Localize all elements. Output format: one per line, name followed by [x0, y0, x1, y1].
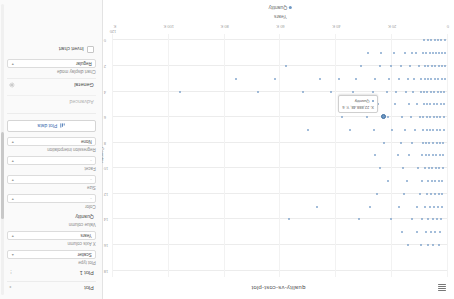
plot-1-row[interactable]: Plot 1 ⋮ — [7, 269, 96, 277]
scatter-point[interactable] — [433, 206, 435, 208]
scatter-point[interactable] — [439, 142, 441, 144]
scatter-point[interactable] — [387, 180, 389, 182]
scatter-point[interactable] — [441, 78, 443, 80]
scatter-point[interactable] — [421, 155, 423, 157]
scatter-point[interactable] — [316, 206, 318, 208]
scatter-point[interactable] — [416, 231, 418, 233]
scatter-point[interactable] — [435, 52, 437, 54]
scatter-point[interactable] — [430, 39, 432, 41]
scatter-point[interactable] — [434, 231, 436, 233]
scatter-point[interactable] — [341, 116, 343, 118]
scatter-point[interactable] — [330, 91, 332, 93]
scatter-point[interactable] — [425, 142, 427, 144]
scatter-point[interactable] — [407, 244, 409, 246]
scatter-point[interactable] — [433, 103, 435, 105]
scatter-point[interactable] — [440, 91, 442, 93]
scatter-point[interactable] — [432, 129, 434, 131]
scatter-point[interactable] — [414, 78, 416, 80]
scatter-point[interactable] — [443, 129, 445, 131]
scatter-point[interactable] — [421, 180, 423, 182]
scatter-point[interactable] — [436, 129, 438, 131]
scatter-point[interactable] — [416, 103, 418, 105]
scatter-point[interactable] — [437, 206, 439, 208]
scatter-point[interactable] — [398, 78, 400, 80]
scatter-point[interactable] — [358, 218, 360, 220]
scatter-point[interactable] — [422, 52, 424, 54]
scatter-point[interactable] — [376, 193, 378, 195]
scatter-point[interactable] — [431, 180, 433, 182]
scatter-point[interactable] — [179, 91, 181, 93]
scatter-point[interactable] — [440, 39, 442, 41]
scatter-point[interactable] — [285, 65, 287, 67]
regression-interpolation-select[interactable]: None ▼ — [7, 137, 96, 146]
scatter-point[interactable] — [434, 78, 436, 80]
scatter-point[interactable] — [431, 65, 433, 67]
panel-scrollbar-thumb[interactable] — [1, 132, 4, 219]
scatter-point[interactable] — [374, 155, 376, 157]
scatter-point[interactable] — [366, 116, 368, 118]
plot-type-select[interactable]: Scatter ▲ — [7, 250, 96, 259]
scatter-point[interactable] — [386, 91, 388, 93]
drag-handle-icon[interactable]: ⋮ — [9, 271, 13, 276]
scatter-point[interactable] — [338, 78, 340, 80]
scatter-point[interactable] — [433, 116, 435, 118]
scatter-point[interactable] — [390, 65, 392, 67]
scatter-point[interactable] — [436, 103, 438, 105]
scatter-point[interactable] — [274, 78, 276, 80]
scatter-point[interactable] — [288, 218, 290, 220]
scatter-point[interactable] — [412, 91, 414, 93]
x-axis-column-select[interactable]: Years ▼ — [7, 231, 96, 240]
scatter-point[interactable] — [428, 142, 430, 144]
scatter-point[interactable] — [437, 91, 439, 93]
scatter-point[interactable] — [393, 52, 395, 54]
scatter-point[interactable] — [401, 116, 403, 118]
scatter-point[interactable] — [352, 91, 354, 93]
scatter-point[interactable] — [420, 91, 422, 93]
scatter-point[interactable] — [438, 244, 440, 246]
scatter-point[interactable] — [374, 78, 376, 80]
scatter-point[interactable] — [443, 103, 445, 105]
plot-area[interactable]: 024681012141618020 K40 K60 K80 K100 K120… — [113, 34, 448, 277]
scatter-point[interactable] — [406, 180, 408, 182]
chart-display-mode-select[interactable]: Regular ▼ — [7, 59, 96, 68]
scatter-point[interactable] — [417, 167, 419, 169]
panel-scrollbar[interactable] — [1, 4, 4, 295]
scatter-point[interactable] — [426, 129, 428, 131]
scatter-point[interactable] — [422, 129, 424, 131]
scatter-point[interactable] — [439, 155, 441, 157]
scatter-point[interactable] — [432, 52, 434, 54]
scatter-point[interactable] — [427, 244, 429, 246]
scatter-point[interactable] — [436, 116, 438, 118]
scatter-point[interactable] — [440, 218, 442, 220]
scatter-point[interactable] — [380, 52, 382, 54]
scatter-point[interactable] — [349, 129, 351, 131]
scatter-point[interactable] — [436, 142, 438, 144]
scatter-point[interactable] — [407, 78, 409, 80]
scatter-point[interactable] — [419, 116, 421, 118]
section-plot[interactable]: Plot ▸ — [7, 281, 96, 294]
scatter-point[interactable] — [422, 142, 424, 144]
chart-legend[interactable]: Quantity — [269, 5, 293, 11]
scatter-point[interactable] — [429, 116, 431, 118]
scatter-point[interactable] — [425, 231, 427, 233]
scatter-point[interactable] — [379, 65, 381, 67]
scatter-point[interactable] — [415, 52, 417, 54]
scatter-point[interactable] — [435, 167, 437, 169]
scatter-point[interactable] — [425, 52, 427, 54]
scatter-point[interactable] — [391, 129, 393, 131]
invert-chart-checkbox[interactable]: Invert chart — [7, 44, 96, 55]
scatter-point[interactable] — [432, 218, 434, 220]
scatter-point[interactable] — [369, 206, 371, 208]
scatter-point[interactable] — [429, 103, 431, 105]
scatter-point[interactable] — [424, 78, 426, 80]
scatter-point[interactable] — [400, 142, 402, 144]
scatter-point[interactable] — [405, 91, 407, 93]
scatter-point[interactable] — [257, 91, 259, 93]
scatter-point[interactable] — [372, 91, 374, 93]
scatter-point[interactable] — [438, 65, 440, 67]
section-advanced[interactable]: Advanced — [7, 95, 96, 108]
scatter-point[interactable] — [418, 65, 420, 67]
scatter-point[interactable] — [425, 155, 427, 157]
scatter-point[interactable] — [434, 39, 436, 41]
scatter-point[interactable] — [441, 206, 443, 208]
